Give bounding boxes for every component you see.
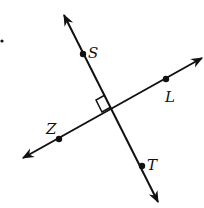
point-z: [56, 136, 62, 142]
label-l: L: [164, 88, 175, 106]
stray-dot: [0, 39, 3, 42]
label-s: S: [88, 44, 98, 62]
point-t: [139, 163, 145, 169]
point-l: [163, 76, 169, 82]
line-zl: [23, 58, 202, 158]
point-s: [80, 51, 86, 57]
label-z: Z: [45, 120, 57, 138]
perpendicular-lines-diagram: S L Z T: [0, 0, 204, 208]
label-t: T: [147, 156, 158, 174]
